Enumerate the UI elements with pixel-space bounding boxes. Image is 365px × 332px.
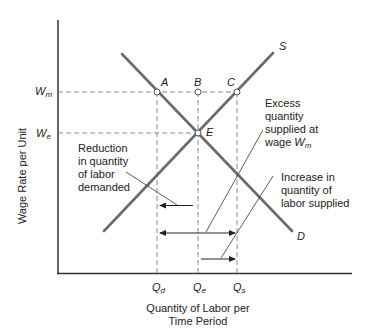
point-e-marker bbox=[195, 130, 201, 136]
x-axis-label-line1: Quantity of Labor per bbox=[146, 302, 249, 315]
point-e-label: E bbox=[206, 126, 213, 139]
increase-annotation: Increase in quantity of labor supplied bbox=[281, 171, 350, 210]
qd-tick-sub: d bbox=[161, 286, 165, 295]
point-a-marker bbox=[154, 89, 160, 95]
increase-line-3: labor supplied bbox=[281, 197, 350, 210]
qd-tick-label: Qd bbox=[152, 281, 165, 297]
x-axis-label-line2: Time Period bbox=[146, 315, 249, 328]
x-axis-label: Quantity of Labor per Time Period bbox=[146, 302, 249, 328]
supply-curve-label: S bbox=[279, 40, 286, 53]
we-tick-sub: e bbox=[46, 132, 50, 141]
we-tick-text: W bbox=[36, 127, 46, 139]
point-c-marker bbox=[234, 89, 240, 95]
demand-curve-label: D bbox=[297, 230, 305, 243]
excess-wage-sub: m bbox=[305, 141, 312, 150]
point-b-marker bbox=[195, 89, 201, 95]
increase-line-2: quantity of bbox=[281, 184, 350, 197]
reduction-annotation: Reduction in quantity of labor demanded bbox=[78, 142, 130, 194]
wm-tick-sub: m bbox=[45, 90, 52, 99]
excess-wage-symbol: W bbox=[294, 136, 304, 148]
point-b-label: B bbox=[194, 76, 201, 89]
qe-tick-text: Q bbox=[193, 281, 202, 293]
reduction-line-3: of labor bbox=[78, 168, 130, 181]
increase-leader-line bbox=[221, 176, 273, 258]
excess-line-3: supplied at bbox=[265, 123, 318, 136]
reduction-line-2: in quantity bbox=[78, 155, 130, 168]
point-a-label: A bbox=[161, 76, 168, 89]
excess-annotation: Excess quantity supplied at wage Wm bbox=[265, 97, 318, 152]
we-tick-label: We bbox=[36, 127, 51, 143]
excess-line-2: quantity bbox=[265, 110, 318, 123]
qe-tick-sub: e bbox=[202, 286, 206, 295]
qe-tick-label: Qe bbox=[193, 281, 206, 297]
reduction-line-1: Reduction bbox=[78, 142, 130, 155]
excess-line-1: Excess bbox=[265, 97, 318, 110]
qs-tick-label: Qs bbox=[233, 281, 246, 297]
excess-wage-text: wage bbox=[265, 136, 294, 148]
y-axis-label: Wage Rate per Unit bbox=[16, 128, 28, 224]
reduction-line-4: demanded bbox=[78, 181, 130, 194]
qs-tick-text: Q bbox=[233, 281, 242, 293]
labor-market-diagram bbox=[0, 0, 365, 332]
wm-tick-label: Wm bbox=[35, 85, 52, 101]
point-c-label: C bbox=[227, 76, 235, 89]
increase-line-1: Increase in bbox=[281, 171, 350, 184]
wm-tick-text: W bbox=[35, 85, 45, 97]
qs-tick-sub: s bbox=[242, 286, 246, 295]
qd-tick-text: Q bbox=[152, 281, 161, 293]
excess-line-4: wage Wm bbox=[265, 136, 318, 152]
excess-leader-line bbox=[206, 130, 263, 232]
